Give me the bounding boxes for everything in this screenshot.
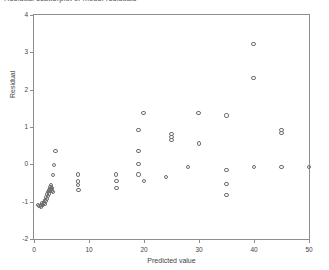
- scatter-point: [224, 193, 228, 197]
- scatter-point: [164, 175, 168, 179]
- y-axis-tick: 2: [30, 90, 34, 91]
- y-axis-tick-label: 0: [24, 159, 28, 168]
- x-axis-tick: 50: [309, 239, 310, 243]
- y-axis-tick-label: -1: [22, 197, 28, 206]
- scatter-point: [51, 173, 55, 177]
- scatter-point: [53, 149, 57, 153]
- scatter-point: [114, 172, 118, 176]
- x-axis-title: Predicted value: [33, 257, 310, 264]
- scatter-point: [142, 179, 146, 183]
- y-axis-tick-label: 4: [24, 10, 28, 19]
- x-axis-tick-label: 10: [85, 245, 92, 254]
- scatter-point: [252, 165, 256, 169]
- y-axis-title: Residual: [9, 71, 16, 98]
- x-axis-tick-label: 30: [195, 245, 202, 254]
- x-axis-tick: 30: [199, 239, 200, 243]
- plot-data-region: [34, 15, 309, 239]
- y-axis-tick-label: 2: [24, 85, 28, 94]
- x-axis-tick: 40: [254, 239, 255, 243]
- scatter-point: [52, 163, 56, 167]
- scatter-point: [76, 183, 80, 187]
- scatter-point: [224, 182, 228, 186]
- x-axis-tick: 20: [144, 239, 145, 243]
- y-axis-tick-label: 3: [24, 47, 28, 56]
- x-axis-tick-label: 20: [140, 245, 147, 254]
- scatter-point: [136, 128, 140, 132]
- y-axis-tick: 4: [30, 15, 34, 16]
- scatter-point: [136, 172, 140, 176]
- scatter-point: [51, 190, 55, 194]
- scatter-point: [186, 165, 190, 169]
- plot-frame: -2-10123401020304050: [33, 14, 310, 240]
- y-axis-tick: -1: [30, 202, 34, 203]
- y-axis-tick-label: 1: [24, 122, 28, 131]
- scatter-point: [141, 111, 145, 115]
- x-axis-tick-label: 50: [305, 245, 312, 254]
- scatter-chart: -2-10123401020304050 Residual Predicted …: [0, 0, 329, 270]
- x-axis-tick-label: 40: [250, 245, 257, 254]
- scatter-point: [279, 131, 283, 135]
- scatter-point: [169, 138, 173, 142]
- scatter-point: [307, 165, 311, 169]
- scatter-point: [136, 162, 140, 166]
- scatter-point: [136, 149, 140, 153]
- scatter-point: [114, 186, 118, 190]
- scatter-point: [251, 76, 255, 80]
- y-axis-tick: 3: [30, 52, 34, 53]
- x-axis-tick: 10: [89, 239, 90, 243]
- scatter-point: [224, 113, 228, 117]
- scatter-point: [76, 188, 80, 192]
- y-axis-tick-label: -2: [22, 234, 28, 243]
- y-axis-tick: 0: [30, 164, 34, 165]
- scatter-point: [251, 42, 255, 46]
- y-axis-tick: 1: [30, 127, 34, 128]
- scatter-point: [197, 141, 201, 145]
- x-axis-tick: 0: [34, 239, 35, 243]
- scatter-point: [76, 172, 80, 176]
- scatter-point: [196, 111, 200, 115]
- x-axis-tick-label: 0: [32, 245, 36, 254]
- scatter-point: [279, 165, 283, 169]
- scatter-point: [114, 179, 118, 183]
- scatter-point: [224, 168, 228, 172]
